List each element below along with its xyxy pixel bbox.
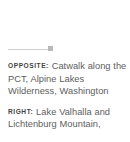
caption-label-right: RIGHT: xyxy=(8,108,33,115)
section-divider xyxy=(8,46,54,52)
caption-label-opposite: OPPOSITE: xyxy=(8,62,49,69)
caption-page: OPPOSITE: Catwalk along the PCT, Alpine … xyxy=(0,0,130,142)
caption-opposite: OPPOSITE: Catwalk along the PCT, Alpine … xyxy=(8,60,128,98)
caption-right: RIGHT: Lake Valhalla and Lichtenburg Mou… xyxy=(8,106,128,131)
divider-line xyxy=(8,49,50,50)
caption-list: OPPOSITE: Catwalk along the PCT, Alpine … xyxy=(8,60,128,131)
divider-square-cap-icon xyxy=(48,46,53,51)
